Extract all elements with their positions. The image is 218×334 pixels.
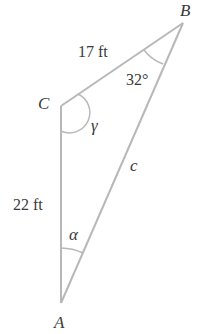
angle-arc-c <box>61 94 90 133</box>
vertex-label-a: A <box>53 313 65 332</box>
side-label-ab: c <box>130 156 138 175</box>
angle-arc-a <box>61 248 83 253</box>
angle-arc-b <box>144 50 163 64</box>
angle-label-c: γ <box>91 116 99 135</box>
angle-label-a: α <box>69 225 79 244</box>
side-label-ca: 22 ft <box>13 196 43 213</box>
side-label-cb: 17 ft <box>78 43 108 60</box>
vertex-label-c: C <box>38 94 50 113</box>
vertex-label-b: B <box>180 1 191 20</box>
triangle-diagram: B C A 17 ft 22 ft c 32° γ α <box>0 0 218 334</box>
angle-label-b: 32° <box>126 71 148 88</box>
